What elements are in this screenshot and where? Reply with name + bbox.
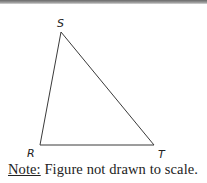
- caption-text: Figure not drawn to scale.: [41, 161, 198, 177]
- note-label: Note:: [8, 161, 41, 177]
- triangle-figure: S R T: [0, 0, 207, 183]
- vertex-label-s: S: [57, 17, 64, 30]
- vertex-label-t: T: [158, 148, 166, 161]
- vertex-label-r: R: [27, 147, 35, 160]
- triangle-rst: [40, 32, 154, 145]
- figure-caption: Note: Figure not drawn to scale.: [8, 161, 198, 178]
